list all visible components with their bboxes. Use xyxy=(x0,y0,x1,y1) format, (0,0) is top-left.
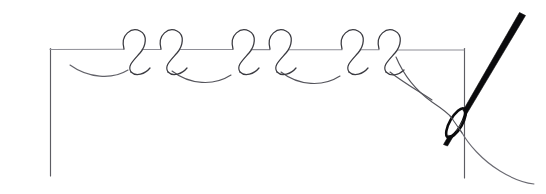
knot-3-under-curl xyxy=(240,68,259,75)
knot-4-loop xyxy=(269,30,291,72)
knot-5-loop xyxy=(341,30,363,72)
knot-2-loop xyxy=(160,30,182,72)
thread-tail xyxy=(461,131,534,184)
scallop-arc-4 xyxy=(390,72,432,100)
knot-6-under-curl xyxy=(386,70,404,75)
knot-4-under-curl xyxy=(277,68,296,75)
stitch-illustration: Knotted line stitch worked on a guide li… xyxy=(0,0,546,194)
knot-pair-3 xyxy=(341,30,404,75)
stitch-diagram-svg: Knotted line stitch worked on a guide li… xyxy=(0,0,546,194)
knot-2-under-curl xyxy=(168,68,187,75)
knot-pair-1 xyxy=(123,30,187,75)
scallop-arc-1 xyxy=(70,65,128,76)
scallop-arc-3 xyxy=(281,72,340,83)
sewing-needle xyxy=(442,13,525,147)
knot-pair-2 xyxy=(232,30,296,75)
needle-eye xyxy=(442,106,469,141)
knot-1-under-curl xyxy=(131,68,150,75)
scallop-arcs xyxy=(70,65,432,100)
knot-3-loop xyxy=(232,30,254,72)
knot-6-loop xyxy=(378,30,400,72)
thread-to-eye xyxy=(396,57,453,119)
knot-5-under-curl xyxy=(349,68,368,75)
knot-1-loop xyxy=(123,30,145,72)
guide-frame xyxy=(50,49,465,179)
